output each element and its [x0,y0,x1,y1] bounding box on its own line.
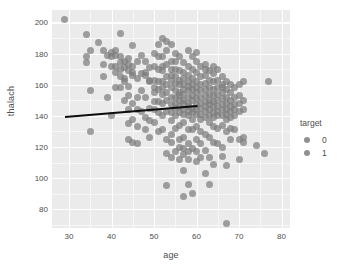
grid-line-major-vertical [282,10,283,228]
x-axis-tick-label: 60 [184,232,210,241]
grid-line-major-horizontal [52,22,290,23]
scatter-point [231,126,238,133]
scatter-point [151,63,158,70]
grid-line-minor-vertical [90,10,91,228]
y-axis-tick-label: 80 [22,205,48,214]
y-axis-tick-label: 160 [22,80,48,89]
scatter-point [219,153,226,160]
grid-line-minor-horizontal [52,163,290,164]
grid-line-minor-vertical [218,10,219,228]
scatter-point [142,94,149,101]
scatter-point [87,87,94,94]
y-axis-tick-label: 200 [22,18,48,27]
x-axis-tick-labels: 304050607080 [0,232,346,248]
scatter-point [134,140,141,147]
y-axis-tick-label: 180 [22,49,48,58]
scatter-point [83,59,90,66]
scatter-point [168,139,175,146]
legend-item-label: 0 [322,135,327,145]
scatter-point [240,139,247,146]
legend-dot-icon [304,150,310,156]
scatter-point [129,42,136,49]
scatter-point [151,119,158,126]
scatter-point [129,116,136,123]
scatter-point [210,161,217,168]
y-axis-tick-label: 100 [22,174,48,183]
scatter-point [100,61,107,68]
scatter-point [202,170,209,177]
scatter-point [202,147,209,154]
legend-entries: 01 [300,133,346,159]
scatter-point [227,136,234,143]
scatter-point [240,97,247,104]
x-axis-tick-label: 80 [269,232,295,241]
scatter-point [185,47,192,54]
scatter-point [180,167,187,174]
scatter-point [219,144,226,151]
scatter-point [168,131,175,138]
scatter-point [87,128,94,135]
scatter-point [142,126,149,133]
y-axis-tick-label: 140 [22,111,48,120]
y-axis-tick-label: 120 [22,143,48,152]
legend-item-label: 1 [322,148,327,158]
scatter-point [125,92,132,99]
scatter-point [185,148,192,155]
scatter-point [240,78,247,85]
scatter-point [261,150,268,157]
scatter-point [100,73,107,80]
scatter-point [185,156,192,163]
scatter-point [129,63,136,70]
scatter-point [206,181,213,188]
scatter-point [163,182,170,189]
legend-item[interactable]: 1 [300,146,346,159]
scatter-point [83,31,90,38]
x-axis-tick-label: 40 [99,232,125,241]
scatter-point [189,190,196,197]
scatter-point [95,39,102,46]
grid-line-minor-horizontal [52,38,290,39]
legend-key-swatch [300,146,313,159]
scatter-point [125,83,132,90]
legend: target 01 [300,118,346,159]
scatter-point [180,119,187,126]
scatter-plot-figure: thalach 80100120140160180200 30405060708… [0,0,346,270]
scatter-point [223,220,230,227]
grid-line-minor-horizontal [52,194,290,195]
scatter-point [180,193,187,200]
legend-title: target [300,118,346,128]
scatter-point [87,47,94,54]
x-axis-tick-label: 70 [226,232,252,241]
scatter-point [168,154,175,161]
grid-line-major-vertical [112,10,113,228]
scatter-point [172,58,179,65]
scatter-point [253,142,260,149]
legend-key-swatch [300,133,313,146]
x-axis-tick-label: 30 [56,232,82,241]
scatter-point [159,53,166,60]
x-axis-tick-label: 50 [141,232,167,241]
scatter-point [134,123,141,130]
scatter-point [202,66,209,73]
y-axis-label: thalach [6,66,16,136]
scatter-point [210,63,217,70]
scatter-point [117,84,124,91]
grid-line-major-vertical [69,10,70,228]
legend-dot-icon [304,137,310,143]
grid-line-major-horizontal [52,178,290,179]
grid-line-minor-vertical [260,10,261,228]
scatter-point [185,181,192,188]
legend-item[interactable]: 0 [300,133,346,146]
scatter-point [193,49,200,56]
x-axis-label: age [52,250,290,260]
scatter-point [223,162,230,169]
scatter-point [219,84,226,91]
scatter-point [159,126,166,133]
scatter-point [236,156,243,163]
scatter-point [134,94,141,101]
grid-line-major-horizontal [52,209,290,210]
scatter-point [104,94,111,101]
scatter-point [197,154,204,161]
scatter-point [146,134,153,141]
y-axis-tick-labels: 80100120140160180200 [22,0,48,270]
